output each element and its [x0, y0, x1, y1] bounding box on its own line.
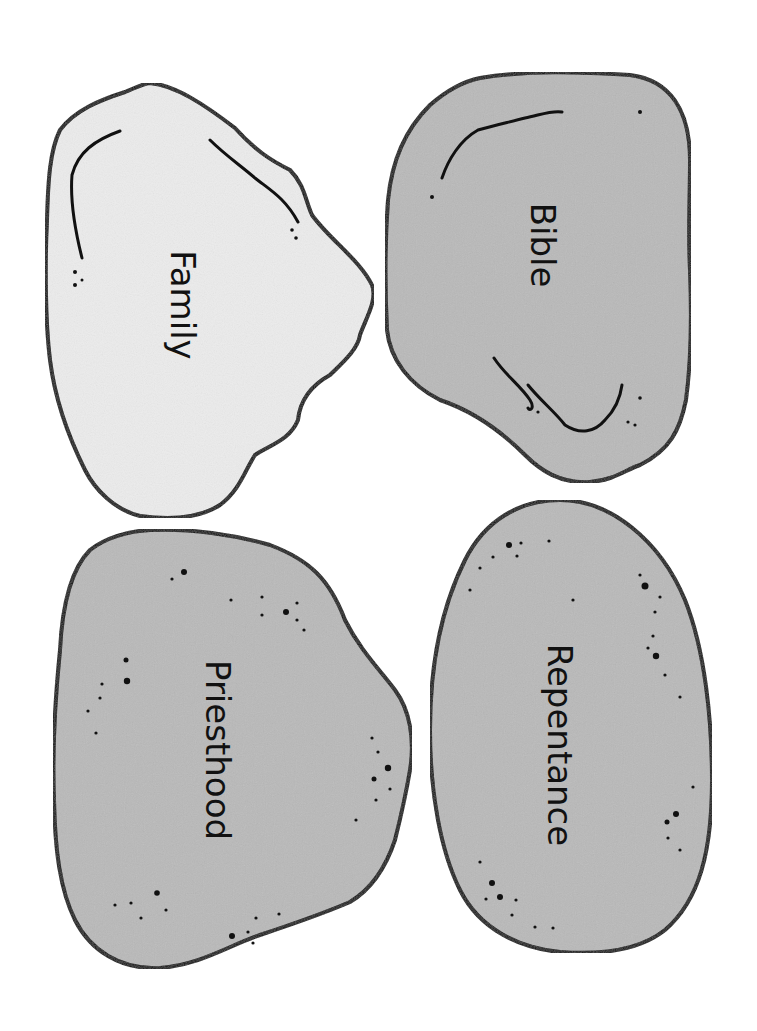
stone-repentance-label: Repentance: [540, 644, 580, 846]
stone-family-shape: [46, 83, 374, 518]
stone-priesthood-label: Priesthood: [198, 660, 238, 840]
stones-sheet: Family Bible: [0, 0, 757, 1031]
stone-family: Family: [46, 83, 374, 518]
stone-bible-label: Bible: [523, 203, 563, 288]
stone-family-label: Family: [163, 250, 203, 359]
stone-priesthood: Priesthood: [53, 530, 412, 968]
stone-repentance: Repentance: [430, 500, 712, 953]
stones-canvas: Family Bible: [0, 0, 757, 1031]
stone-bible: Bible: [386, 72, 691, 482]
